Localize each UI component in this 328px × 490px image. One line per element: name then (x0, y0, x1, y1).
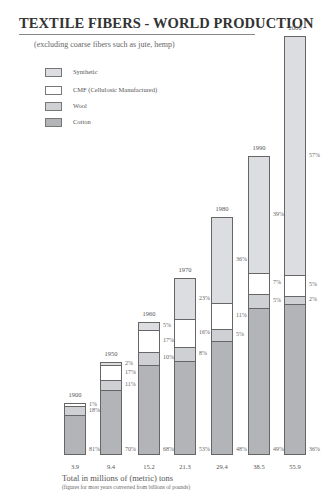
year-label: 1990 (244, 144, 274, 151)
bar-segment-wool (249, 294, 269, 309)
percent-label: 8% (199, 350, 207, 356)
bar-segment-synthetic (285, 37, 305, 275)
bar-segment-cotton (249, 308, 269, 454)
bar-segment-synthetic (212, 218, 232, 303)
percent-label: 48% (236, 446, 247, 452)
percent-label: 36% (236, 256, 247, 262)
title-underline (19, 34, 255, 35)
bar-1970 (174, 278, 196, 455)
bar-segment-cotton (65, 415, 85, 454)
bar-segment-cmf (139, 330, 159, 352)
percent-label: 81% (89, 446, 100, 452)
bar-1960 (138, 322, 160, 455)
percent-label: 39% (273, 211, 284, 217)
bar-segment-synthetic (249, 157, 269, 273)
percent-label: 11% (125, 381, 136, 387)
percent-label: 17% (163, 337, 174, 343)
legend-swatch (45, 86, 62, 95)
percent-label: 18% (89, 407, 100, 413)
footer-note: (figures for most years converted from b… (62, 484, 190, 490)
bar-1900 (64, 403, 86, 455)
bar-segment-wool (175, 347, 195, 361)
percent-label: 10% (163, 354, 174, 360)
bar-segment-wool (212, 329, 232, 341)
total-label: 55.9 (280, 463, 310, 470)
footer-total-label: Total in millions of (metric) tons (62, 473, 173, 483)
bar-segment-cotton (285, 304, 305, 454)
bar-segment-cmf (249, 273, 269, 294)
percent-label: 5% (236, 331, 244, 337)
total-label: 21.3 (170, 463, 200, 470)
bar-segment-wool (101, 380, 121, 390)
percent-label: 49% (273, 446, 284, 452)
bar-segment-cotton (175, 361, 195, 454)
bar-1980 (211, 217, 233, 455)
legend-swatch (45, 118, 62, 127)
percent-label: 68% (163, 446, 174, 452)
bar-segment-wool (65, 406, 85, 415)
bar-segment-cotton (212, 341, 232, 454)
bar-segment-wool (285, 296, 305, 304)
bar-1990 (248, 156, 270, 455)
year-label: 2000 (280, 24, 310, 31)
percent-label: 2% (309, 296, 317, 302)
percent-label: 53% (199, 446, 210, 452)
total-label: 38.5 (244, 463, 274, 470)
bar-segment-cmf (212, 303, 232, 329)
legend-label: Synthetic (73, 68, 98, 75)
bar-segment-cotton (139, 365, 159, 454)
percent-label: 23% (199, 295, 210, 301)
bar-1950 (100, 362, 122, 455)
percent-label: 11% (236, 312, 247, 318)
bar-segment-cmf (175, 319, 195, 347)
chart-title: TEXTILE FIBERS - WORLD PRODUCTION (19, 15, 314, 32)
legend-swatch (45, 102, 62, 111)
year-label: 1960 (134, 310, 164, 317)
percent-label: 5% (163, 322, 171, 328)
bar-segment-cmf (101, 365, 121, 380)
bar-segment-synthetic (175, 279, 195, 319)
year-label: 1950 (96, 350, 126, 357)
year-label: 1980 (207, 205, 237, 212)
legend-label: Cotton (73, 118, 91, 125)
bar-2000 (284, 36, 306, 455)
bar-segment-wool (139, 352, 159, 365)
total-label: 9.4 (96, 463, 126, 470)
total-label: 3.9 (60, 463, 90, 470)
chart-subtitle: (excluding coarse fibers such as jute, h… (34, 40, 175, 49)
total-label: 29.4 (207, 463, 237, 470)
percent-label: 36% (309, 446, 320, 452)
bar-segment-cotton (101, 390, 121, 454)
percent-label: 17% (125, 369, 136, 375)
year-label: 1900 (60, 391, 90, 398)
legend-label: Wool (73, 102, 87, 109)
legend-label: CMF (Cellulosic Manufactured) (73, 86, 157, 93)
total-label: 15.2 (134, 463, 164, 470)
percent-label: 57% (309, 152, 320, 158)
legend-swatch (45, 68, 62, 77)
year-label: 1970 (170, 266, 200, 273)
percent-label: 5% (273, 297, 281, 303)
percent-label: 5% (309, 281, 317, 287)
percent-label: 16% (199, 329, 210, 335)
bar-segment-cmf (285, 275, 305, 296)
percent-label: 70% (125, 446, 136, 452)
percent-label: 2% (125, 360, 133, 366)
percent-label: 7% (273, 279, 281, 285)
